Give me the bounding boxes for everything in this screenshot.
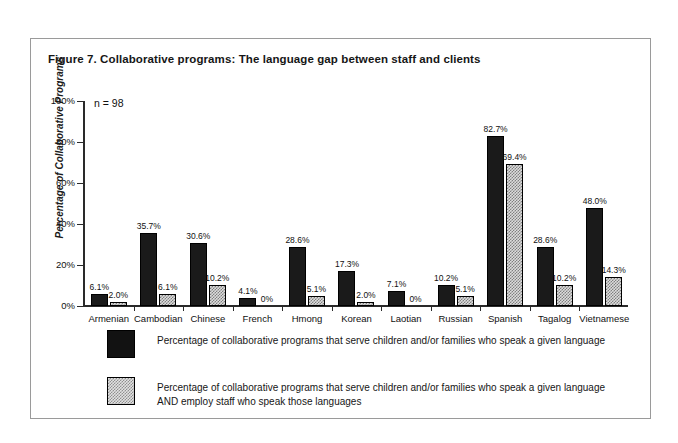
bar	[457, 296, 474, 306]
bar-group: 17.3%2.0%	[332, 101, 382, 306]
bar-value-label: 10.2%	[549, 273, 580, 283]
bar-value-label: 6.1%	[152, 282, 183, 292]
bar	[289, 247, 306, 306]
y-axis-tick-label: 20%	[41, 259, 75, 270]
bar-value-label: 28.6%	[282, 235, 313, 245]
bar-value-label: 2.0%	[103, 290, 134, 300]
bar-value-label: 35.7%	[133, 221, 164, 231]
y-axis-tick-label: 60%	[41, 177, 75, 188]
x-axis-tick-mark	[282, 306, 283, 311]
bar	[556, 285, 573, 306]
bar	[159, 294, 176, 307]
chart-legend: Percentage of collaborative programs tha…	[107, 330, 627, 428]
bar-value-label: 69.4%	[499, 152, 530, 162]
bar-group: 30.6%10.2%	[183, 101, 233, 306]
bar-value-label: 5.1%	[301, 284, 332, 294]
legend-label-series-a: Percentage of collaborative programs tha…	[157, 330, 605, 348]
bar-value-label: 7.1%	[381, 279, 412, 289]
bar	[605, 277, 622, 306]
y-axis-title: Percentage of Collaborative Programs	[54, 59, 65, 239]
x-axis-tick-mark	[530, 306, 531, 311]
x-axis-tick-mark	[579, 306, 580, 311]
y-axis-tick-label: 0%	[41, 300, 75, 311]
legend-label-series-b: Percentage of collaborative programs tha…	[157, 377, 605, 409]
bar-group: 10.2%5.1%	[431, 101, 481, 306]
bar-value-label: 10.2%	[431, 273, 462, 283]
bar-value-label: 14.3%	[598, 265, 629, 275]
bar-group: 48.0%14.3%	[579, 101, 629, 306]
bar	[487, 136, 504, 306]
legend-label-line1: Percentage of collaborative programs tha…	[157, 381, 605, 395]
bar-value-label: 28.6%	[530, 235, 561, 245]
bar-value-label: 82.7%	[480, 124, 511, 134]
bar-value-label: 30.6%	[183, 231, 214, 241]
legend-label-line1: Percentage of collaborative programs tha…	[157, 334, 605, 348]
x-axis-category-label: Vietnamese	[569, 313, 639, 324]
bar-value-label: 5.1%	[450, 284, 481, 294]
bar	[308, 296, 325, 306]
bar-value-label: 2.0%	[350, 290, 381, 300]
bar	[506, 164, 523, 306]
bar-group: 35.7%6.1%	[134, 101, 184, 306]
figure-container: Figure 7. Collaborative programs: The la…	[30, 38, 651, 419]
bar-group: 4.1%0%	[233, 101, 283, 306]
bars-layer: 6.1%2.0%35.7%6.1%30.6%10.2%4.1%0%28.6%5.…	[84, 101, 629, 306]
x-axis-tick-mark	[381, 306, 382, 311]
bar	[338, 271, 355, 306]
y-axis-tick-label: 40%	[41, 218, 75, 229]
bar	[140, 233, 157, 306]
y-axis-tick-label: 80%	[41, 136, 75, 147]
x-axis-tick-mark	[332, 306, 333, 311]
bar-value-label: 0%	[251, 294, 282, 304]
y-axis-tick-label: 100%	[41, 95, 75, 106]
bar-value-label: 17.3%	[332, 259, 363, 269]
x-axis-tick-mark	[233, 306, 234, 311]
legend-label-line2: AND employ staff who speak those languag…	[157, 395, 605, 409]
bar-group: 6.1%2.0%	[84, 101, 134, 306]
bar-group: 7.1%0%	[381, 101, 431, 306]
bar	[209, 285, 226, 306]
x-axis-tick-mark	[134, 306, 135, 311]
legend-swatch-series-a	[107, 330, 135, 358]
bar-value-label: 10.2%	[202, 273, 233, 283]
bar	[110, 302, 127, 306]
x-axis-tick-mark	[480, 306, 481, 311]
bar-group: 28.6%10.2%	[530, 101, 580, 306]
bar-value-label: 48.0%	[579, 196, 610, 206]
bar-value-label: 0%	[400, 294, 431, 304]
x-axis-tick-mark	[183, 306, 184, 311]
legend-item: Percentage of collaborative programs tha…	[107, 377, 627, 409]
bar-group: 28.6%5.1%	[282, 101, 332, 306]
x-axis-tick-mark	[431, 306, 432, 311]
bar	[357, 302, 374, 306]
legend-swatch-series-b	[107, 377, 135, 405]
bar	[586, 208, 603, 306]
bar-group: 82.7%69.4%	[480, 101, 530, 306]
legend-item: Percentage of collaborative programs tha…	[107, 330, 627, 358]
